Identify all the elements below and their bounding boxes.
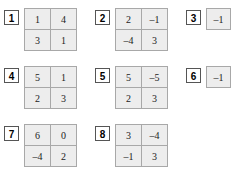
problem-number-label: 6 bbox=[186, 68, 201, 83]
problem-item-1: 1 1 4 3 1 bbox=[4, 8, 77, 51]
matrix-grid-5: 5 –5 2 3 bbox=[115, 66, 168, 109]
matrix-cell: 3 bbox=[142, 146, 168, 167]
problem-number-label: 4 bbox=[4, 68, 19, 83]
matrix-row: 2 –1 bbox=[116, 9, 168, 30]
matrix-cell: 3 bbox=[116, 125, 142, 146]
matrix-grid-7: 6 0 –4 2 bbox=[24, 124, 77, 167]
matrix-cell: 5 bbox=[25, 67, 51, 88]
matrix-cell: 2 bbox=[51, 146, 77, 167]
matrix-worksheet: 1 1 4 3 1 2 2 –1 –4 bbox=[0, 0, 248, 177]
matrix-cell: 2 bbox=[25, 88, 51, 109]
matrix-cell: 6 bbox=[25, 125, 51, 146]
matrix-grid-3: –1 bbox=[206, 8, 231, 30]
problem-item-6: 6 –1 bbox=[186, 66, 231, 88]
matrix-cell: 1 bbox=[25, 9, 51, 30]
matrix-row: –1 bbox=[207, 9, 231, 30]
matrix-row: 5 1 bbox=[25, 67, 77, 88]
problem-item-8: 8 3 –4 –1 3 bbox=[95, 124, 168, 167]
problem-row: 1 1 4 3 1 2 2 –1 –4 bbox=[0, 8, 248, 52]
matrix-cell: 3 bbox=[51, 88, 77, 109]
matrix-cell: 2 bbox=[116, 88, 142, 109]
matrix-grid-1: 1 4 3 1 bbox=[24, 8, 77, 51]
matrix-cell: –1 bbox=[207, 67, 231, 88]
matrix-cell: –1 bbox=[207, 9, 231, 30]
matrix-cell: 1 bbox=[51, 30, 77, 51]
matrix-row: 6 0 bbox=[25, 125, 77, 146]
matrix-row: 2 3 bbox=[116, 88, 168, 109]
problem-row: 7 6 0 –4 2 8 3 –4 –1 bbox=[0, 124, 248, 168]
matrix-row: 3 –4 bbox=[116, 125, 168, 146]
problem-item-7: 7 6 0 –4 2 bbox=[4, 124, 77, 167]
problem-number-label: 2 bbox=[95, 10, 110, 25]
matrix-grid-4: 5 1 2 3 bbox=[24, 66, 77, 109]
problem-row: 4 5 1 2 3 5 5 –5 2 bbox=[0, 66, 248, 110]
matrix-cell: –1 bbox=[116, 146, 142, 167]
matrix-row: –1 bbox=[207, 67, 231, 88]
matrix-row: 2 3 bbox=[25, 88, 77, 109]
matrix-cell: 1 bbox=[51, 67, 77, 88]
matrix-cell: –4 bbox=[142, 125, 168, 146]
matrix-cell: 2 bbox=[116, 9, 142, 30]
matrix-cell: 3 bbox=[142, 30, 168, 51]
matrix-cell: 4 bbox=[51, 9, 77, 30]
matrix-grid-6: –1 bbox=[206, 66, 231, 88]
matrix-cell: 3 bbox=[25, 30, 51, 51]
matrix-cell: –5 bbox=[142, 67, 168, 88]
problem-number-label: 7 bbox=[4, 126, 19, 141]
problem-number-label: 1 bbox=[4, 10, 19, 25]
matrix-grid-8: 3 –4 –1 3 bbox=[115, 124, 168, 167]
matrix-row: 1 4 bbox=[25, 9, 77, 30]
matrix-row: –4 2 bbox=[25, 146, 77, 167]
matrix-row: 5 –5 bbox=[116, 67, 168, 88]
matrix-cell: 3 bbox=[142, 88, 168, 109]
matrix-cell: 5 bbox=[116, 67, 142, 88]
problem-item-4: 4 5 1 2 3 bbox=[4, 66, 77, 109]
problem-item-2: 2 2 –1 –4 3 bbox=[95, 8, 168, 51]
matrix-row: 3 1 bbox=[25, 30, 77, 51]
problem-item-3: 3 –1 bbox=[186, 8, 231, 30]
matrix-row: –4 3 bbox=[116, 30, 168, 51]
problem-item-5: 5 5 –5 2 3 bbox=[95, 66, 168, 109]
matrix-cell: –4 bbox=[116, 30, 142, 51]
matrix-cell: –1 bbox=[142, 9, 168, 30]
matrix-grid-2: 2 –1 –4 3 bbox=[115, 8, 168, 51]
matrix-cell: –4 bbox=[25, 146, 51, 167]
problem-number-label: 3 bbox=[186, 10, 201, 25]
problem-number-label: 8 bbox=[95, 126, 110, 141]
matrix-cell: 0 bbox=[51, 125, 77, 146]
problem-number-label: 5 bbox=[95, 68, 110, 83]
matrix-row: –1 3 bbox=[116, 146, 168, 167]
